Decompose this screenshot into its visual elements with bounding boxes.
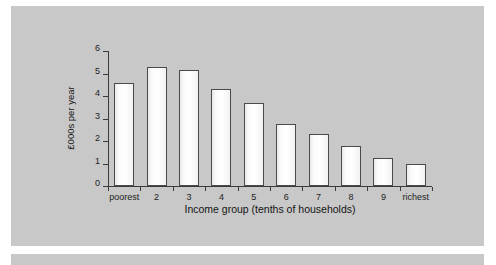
y-axis-tick-label: 2 <box>95 134 100 143</box>
bar <box>244 103 264 186</box>
bar <box>276 124 296 186</box>
y-axis-tick-label: 3 <box>95 112 100 121</box>
bar <box>309 134 329 186</box>
y-axis-tick-label: 1 <box>95 157 100 166</box>
x-axis-tick <box>140 187 141 191</box>
y-axis-tick <box>103 51 108 52</box>
bar <box>406 164 426 187</box>
x-axis-tick <box>270 187 271 191</box>
y-axis-tick <box>103 74 108 75</box>
y-axis-tick <box>103 164 108 165</box>
y-axis-line <box>108 51 109 187</box>
x-axis-tick <box>400 187 401 191</box>
y-axis-tick-label: 5 <box>95 67 100 76</box>
bottom-strip <box>11 254 484 265</box>
y-axis-title: £000s per year <box>66 86 76 149</box>
bar <box>373 158 393 186</box>
bar <box>179 70 199 186</box>
bar <box>211 89 231 186</box>
x-axis-title: Income group (tenths of households) <box>108 204 432 215</box>
x-axis-tick <box>173 187 174 191</box>
x-axis-tick <box>367 187 368 191</box>
x-axis-tick <box>302 187 303 191</box>
x-axis-tick <box>238 187 239 191</box>
x-axis-tick <box>432 187 433 191</box>
y-axis-tick-label: 4 <box>95 89 100 98</box>
bar <box>147 67 167 186</box>
x-axis-tick <box>335 187 336 191</box>
figure-container: £000s per year 0123456 poorest23456789ri… <box>0 0 496 265</box>
x-axis-tick-label: richest <box>394 193 438 202</box>
y-axis-tick <box>103 141 108 142</box>
bar <box>341 146 361 187</box>
chart-panel: £000s per year 0123456 poorest23456789ri… <box>11 6 484 246</box>
bar <box>114 83 134 187</box>
y-axis-tick-label: 6 <box>95 44 100 53</box>
y-axis-tick <box>103 96 108 97</box>
plot-area: 0123456 poorest23456789richest <box>108 51 432 186</box>
x-axis-tick <box>205 187 206 191</box>
y-axis-tick <box>103 119 108 120</box>
y-axis-tick-label: 0 <box>95 179 100 188</box>
x-axis-tick <box>108 187 109 191</box>
